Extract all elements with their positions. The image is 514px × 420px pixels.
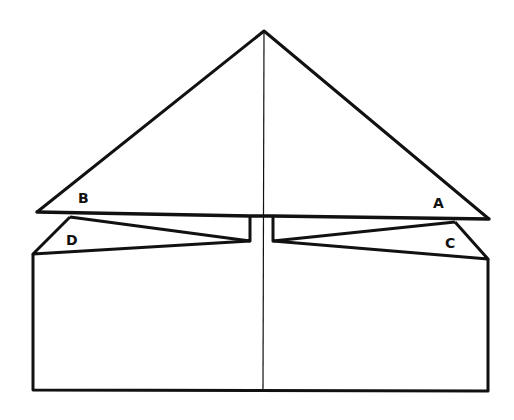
- left-flap-wedge: [70, 216, 250, 241]
- fold-diagram: B A D C: [0, 0, 514, 420]
- center-crease: [263, 31, 264, 390]
- rectangle-body: [33, 254, 488, 391]
- label-b: B: [78, 190, 89, 206]
- right-lower-flap: [273, 222, 488, 259]
- label-a: A: [433, 195, 444, 211]
- label-d: D: [66, 232, 78, 248]
- label-c: C: [445, 235, 455, 251]
